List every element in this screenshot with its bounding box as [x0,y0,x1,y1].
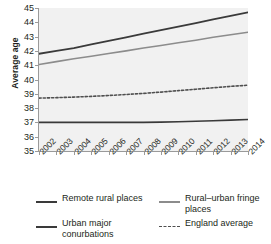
y-tick-label: 40 [24,75,34,84]
chart-legend: Remote rural places Rural–urban fringe p… [30,193,271,244]
legend-swatch-line-icon [36,197,57,206]
y-tick-label: 39 [24,89,34,98]
legend-label: Remote rural places [62,193,143,204]
y-tick-label: 36 [24,132,34,141]
series-line [39,85,248,98]
x-axis-tick-labels: 2002200320042005200620072008200920102011… [39,150,271,184]
plot-area [39,8,248,151]
y-tick-label: 41 [24,61,34,70]
legend-item-england-average[interactable]: England average [159,218,271,229]
legend-label: Rural–urban fringe places [185,193,271,215]
y-tick-label: 42 [24,46,34,55]
legend-label: England average [185,218,253,229]
series-lines [39,8,248,151]
y-tick-label: 43 [24,32,34,41]
legend-item-remote-rural-places[interactable]: Remote rural places [36,193,156,204]
legend-item-rural-urban-fringe-places[interactable]: Rural–urban fringe places [159,193,271,215]
y-tick-label: 38 [24,104,34,113]
legend-swatch-line-icon [159,197,180,206]
y-tick-label: 35 [24,147,34,156]
series-line [39,120,248,123]
legend-swatch-line-icon [36,222,57,231]
legend-label: Urban major conurbations [62,218,156,240]
legend-item-urban-major-conurbations[interactable]: Urban major conurbations [36,218,156,240]
y-tick-label: 37 [24,118,34,127]
legend-swatch-dashed-line-icon [159,222,180,231]
y-tick-label: 45 [24,4,34,13]
y-tick-label: 44 [24,18,34,27]
chart-figure: Average age 4544434241403938373635 20022… [0,0,271,244]
